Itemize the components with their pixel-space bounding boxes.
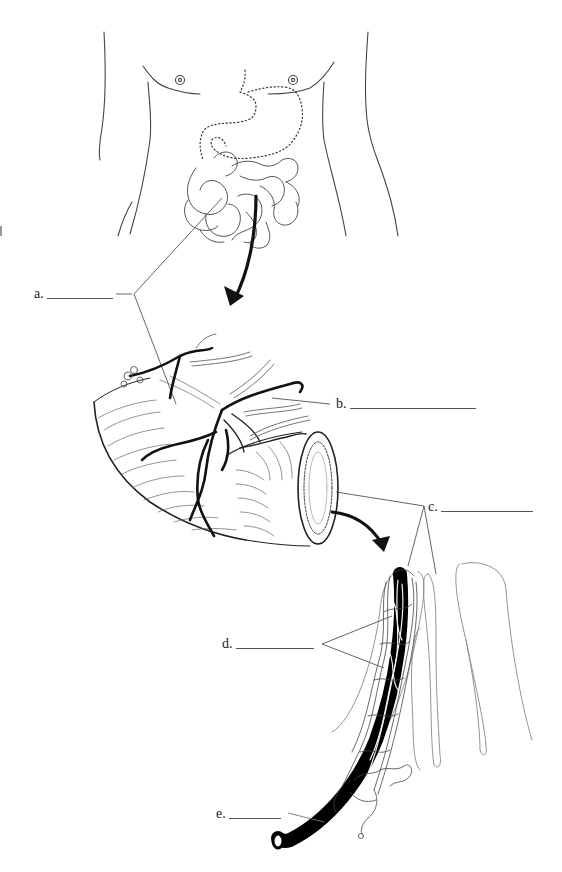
label-b-answer-blank[interactable] [350, 407, 476, 409]
label-e: e. [216, 807, 281, 821]
label-c-answer-blank[interactable] [441, 510, 533, 512]
small-intestine-coils [185, 152, 300, 248]
label-c: c. [428, 500, 533, 514]
leader-lines-d [322, 616, 392, 668]
villi-illustration [273, 563, 532, 848]
label-a-letter: a. [34, 287, 44, 301]
label-a: a. [34, 287, 113, 301]
intestine-section-illustration [94, 334, 338, 546]
label-e-answer-blank[interactable] [229, 817, 281, 819]
label-d-answer-blank[interactable] [236, 647, 314, 649]
label-d-letter: d. [222, 637, 233, 651]
label-e-letter: e. [216, 807, 226, 821]
arrow-torso-to-section [224, 196, 256, 306]
label-b: b. [336, 397, 476, 411]
label-d: d. [222, 637, 314, 651]
edge-mark [0, 226, 2, 236]
label-b-letter: b. [336, 397, 347, 411]
stomach-outline [200, 70, 302, 160]
label-a-answer-blank[interactable] [47, 297, 113, 299]
leader-line-b [272, 398, 330, 404]
leader-lines-c [336, 492, 436, 574]
arrow-section-to-villi [332, 512, 390, 552]
label-c-letter: c. [428, 500, 438, 514]
diagram-illustration [0, 0, 562, 872]
torso-illustration [99, 32, 398, 236]
